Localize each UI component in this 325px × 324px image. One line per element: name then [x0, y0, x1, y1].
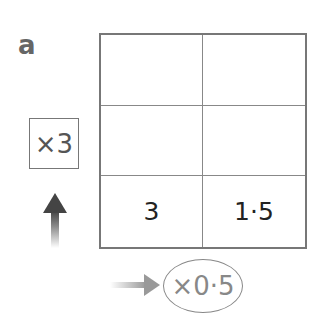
table-cell: [101, 106, 203, 177]
arrow-up-icon: [43, 193, 67, 248]
table-cell: [203, 35, 305, 106]
vertical-multiplier-box: ×3: [29, 118, 79, 169]
ratio-table: 3 1·5: [99, 33, 307, 249]
arrow-right-icon: [110, 274, 160, 296]
table-cell: 1·5: [203, 176, 305, 247]
table-cell: [101, 35, 203, 106]
table-cell: [203, 106, 305, 177]
table-cell: 3: [101, 176, 203, 247]
horizontal-multiplier-ellipse: ×0·5: [163, 259, 243, 313]
part-label: a: [18, 30, 36, 60]
